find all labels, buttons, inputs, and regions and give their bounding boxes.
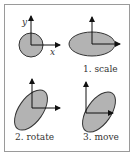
panel-label-rotate: 2. rotate [15, 132, 54, 142]
panel-label-scale: 1. scale [83, 64, 118, 74]
rotated-ellipse-shape [8, 84, 54, 135]
x-axis-label: x [50, 47, 55, 57]
panel-scale: 1. scale [69, 17, 120, 74]
panel-move: 3. move [76, 82, 122, 142]
panel-rotate: 2. rotate [8, 79, 60, 142]
y-axis-label: y [21, 17, 28, 27]
moved-ellipse-shape [76, 86, 122, 137]
transform-diagram: y x 1. scale 2. rotate 3. move [0, 0, 134, 156]
panel-label-move: 3. move [83, 132, 119, 142]
panel-original: y x [19, 16, 60, 57]
